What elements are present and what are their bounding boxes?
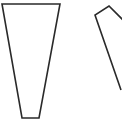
right-polygon-shape [95, 6, 122, 90]
left-trapezoid-shape [2, 4, 60, 118]
diagram-canvas [0, 0, 122, 126]
